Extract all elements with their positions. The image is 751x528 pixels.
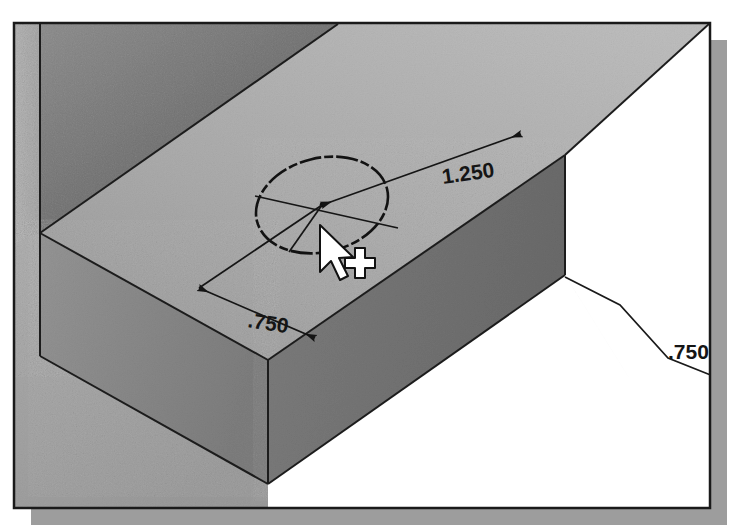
back-wall-left-strip: [15, 24, 40, 243]
cad-screenshot: 1.250 .750 .750: [0, 0, 751, 528]
dimension-750-leader-label[interactable]: .750: [668, 340, 709, 363]
model-artwork[interactable]: 1.250 .750 .750: [15, 24, 713, 507]
cad-viewport[interactable]: 1.250 .750 .750: [0, 0, 751, 528]
